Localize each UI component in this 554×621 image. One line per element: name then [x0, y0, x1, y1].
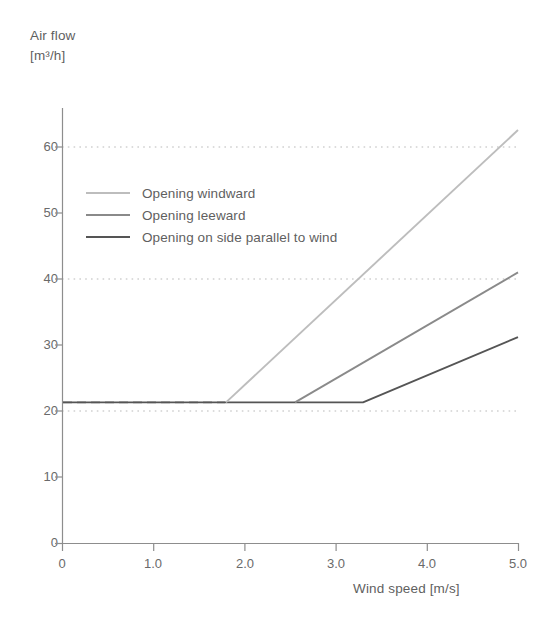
legend: Opening windward Opening leeward Opening… — [86, 182, 337, 248]
series-line-opening-on-side-parallel-to-wind — [63, 337, 518, 402]
series-line-opening-leeward — [295, 272, 518, 402]
legend-swatch-opening-windward — [86, 192, 130, 194]
legend-item-opening-windward: Opening windward — [86, 182, 337, 204]
legend-item-opening-leeward: Opening leeward — [86, 204, 337, 226]
legend-label-opening-windward: Opening windward — [142, 186, 255, 201]
air-flow-wind-speed-chart: Air flow [m³/h] Wind speed [m/s] 60 50 4… — [0, 0, 554, 621]
axis-lines — [62, 108, 519, 544]
legend-swatch-opening-on-side-parallel-to-wind — [86, 236, 130, 238]
plot-area — [0, 0, 554, 621]
series-line-opening-windward — [226, 130, 518, 402]
x-axis-ticks — [63, 543, 519, 551]
legend-swatch-opening-leeward — [86, 214, 130, 216]
legend-label-opening-on-side-parallel-to-wind: Opening on side parallel to wind — [142, 230, 337, 245]
y-axis-ticks — [55, 147, 62, 544]
legend-label-opening-leeward: Opening leeward — [142, 208, 246, 223]
legend-item-opening-on-side-parallel-to-wind: Opening on side parallel to wind — [86, 226, 337, 248]
